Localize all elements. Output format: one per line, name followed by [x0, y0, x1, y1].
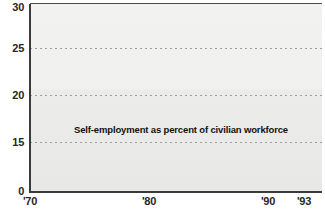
gridline-20	[30, 95, 322, 96]
plot-background	[30, 4, 322, 192]
y-axis-line	[29, 4, 31, 193]
gridline-15	[30, 142, 322, 143]
chart-annotation-label: Self-employment as percent of civilian w…	[74, 124, 288, 135]
y-tick-label-25: 25	[0, 42, 24, 54]
x-tick-label-90: '90	[253, 195, 283, 207]
x-tick-label-80: '80	[134, 195, 164, 207]
gridline-25	[30, 48, 322, 49]
x-tick-label-70: '70	[15, 195, 45, 207]
x-tick-label-93: '93	[289, 195, 319, 207]
plot-area: Self-employment as percent of civilian w…	[30, 4, 322, 192]
y-tick-label-15: 15	[0, 136, 24, 148]
y-tick-label-30: 30	[0, 1, 24, 13]
y-tick-label-20: 20	[0, 89, 24, 101]
x-axis-line	[29, 191, 322, 193]
chart-figure: Self-employment as percent of civilian w…	[0, 0, 325, 219]
cropped-source-line	[2, 211, 182, 218]
